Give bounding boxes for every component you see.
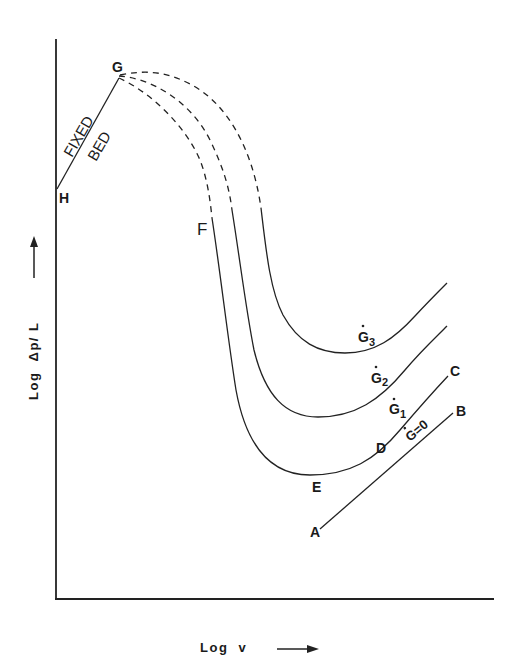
point-label-b: B [456, 403, 466, 419]
point-label-d: D [376, 440, 386, 456]
svg-text:G=0: G=0 [402, 417, 431, 445]
point-label-a: A [310, 524, 320, 540]
y-axis-arrow-icon [30, 236, 38, 278]
point-label-e: E [312, 479, 321, 495]
dashed-curve-g3 [120, 72, 261, 208]
svg-text:1: 1 [400, 408, 406, 420]
curve-g2 [232, 210, 447, 417]
y-axis-label: Log Δp/ L [26, 322, 41, 401]
svg-text:G: G [389, 401, 400, 417]
svg-text:G: G [371, 370, 382, 386]
dashed-curve-g1 [119, 78, 212, 218]
fluidized-bed-pressure-drop-diagram: Log Δp/ L Log v FIXED BED H G F E D C B … [0, 0, 513, 656]
dashed-curve-g2 [119, 76, 232, 210]
x-axis-arrow-icon [277, 645, 319, 653]
point-label-c: C [450, 363, 460, 379]
point-label-g: G [112, 59, 123, 75]
curve-g3 [261, 208, 447, 353]
curve-label-g3: G 3 [358, 325, 375, 348]
point-label-h: H [59, 190, 69, 206]
curve-label-g1: G 1 [389, 398, 406, 420]
fixed-bed-label: FIXED BED [60, 113, 114, 164]
point-label-f: F [197, 220, 207, 239]
svg-text:G: G [358, 329, 369, 345]
curve-label-g2: G 2 [371, 366, 388, 388]
x-axis-label: Log v [200, 640, 247, 655]
y-axis-label-group: Log Δp/ L [26, 322, 41, 401]
svg-text:3: 3 [369, 336, 375, 348]
svg-text:2: 2 [382, 376, 388, 388]
